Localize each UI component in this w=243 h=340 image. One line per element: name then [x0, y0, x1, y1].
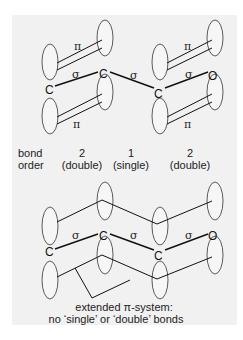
p-orbital-c1-lower: [42, 261, 58, 299]
conjugation-diagram: C C C O σ σ σ π π π π bond order 2 (doub…: [0, 0, 243, 340]
atom-o: O: [208, 69, 217, 83]
bond-order-value: 2: [79, 147, 85, 159]
atom-c3: C: [154, 249, 163, 263]
p-orbital-c2-upper: [97, 20, 113, 56]
pi-label: π: [184, 40, 191, 53]
atom-c1: C: [45, 83, 54, 97]
sigma-label: σ: [185, 68, 193, 81]
bond-order-type: (double): [62, 159, 102, 171]
bond-order-value: 1: [128, 147, 134, 159]
pi-label: π: [73, 118, 80, 131]
p-orbital-c3-lower: [152, 98, 168, 134]
sigma-label: σ: [72, 68, 80, 81]
p-orbital-c1-upper: [42, 44, 58, 80]
p-orbital-o-upper: [207, 182, 223, 220]
p-orbital-o-upper: [207, 20, 223, 56]
atom-c3: C: [154, 87, 163, 101]
pi-label: π: [74, 40, 81, 53]
caption: no ‘single’ or ‘double’ bonds: [49, 313, 184, 325]
atom-c1: C: [45, 245, 54, 259]
sigma-label: σ: [130, 229, 138, 242]
p-orbital-c3-upper: [152, 44, 168, 80]
bond-order-type: (double): [170, 159, 210, 171]
p-orbital-c1-upper: [42, 207, 58, 245]
bond-order-type: (single): [113, 159, 149, 171]
caption: extended π-system:: [75, 301, 172, 313]
bond-order-label: order: [18, 159, 44, 171]
extended-pi-lines: [57, 200, 212, 298]
atom-c2: C: [99, 67, 108, 81]
bond-order-value: 2: [187, 147, 193, 159]
sigma-label: σ: [72, 229, 80, 242]
p-orbital-c3-lower: [152, 261, 168, 299]
bond-order-label: bond: [18, 147, 42, 159]
p-orbital-c1-lower: [42, 98, 58, 134]
atom-o: O: [208, 229, 217, 243]
sigma-label: σ: [130, 69, 138, 82]
p-orbital-c3-upper: [152, 207, 168, 245]
pi-label: π: [184, 118, 191, 131]
sigma-label: σ: [185, 229, 193, 242]
atom-c2: C: [99, 229, 108, 243]
